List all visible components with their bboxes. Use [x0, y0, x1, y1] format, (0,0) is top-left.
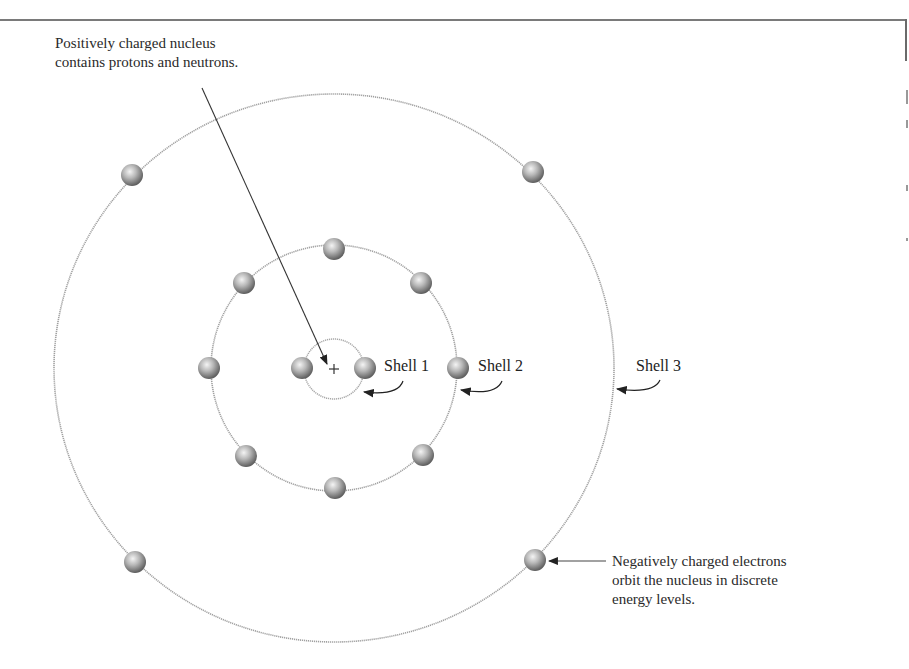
electron-icon: [291, 357, 313, 379]
electron-icon: [524, 549, 546, 571]
nucleus-annotation: Positively charged nucleus contains prot…: [55, 34, 238, 72]
shell-2-label: Shell 2: [478, 357, 523, 375]
electron-icon: [324, 477, 346, 499]
nucleus-pointer-arrow: [202, 88, 327, 364]
shell-2-curved-arrow: [461, 381, 502, 392]
shell-1-label: Shell 1: [384, 357, 429, 375]
electron-icon: [235, 445, 257, 467]
nucleus-plus-icon: [329, 364, 339, 374]
electron-annotation-line-3: energy levels.: [612, 590, 787, 609]
electron-icon: [323, 238, 345, 260]
electron-icon: [522, 161, 544, 183]
shell-1-curved-arrow: [364, 381, 403, 393]
electron-icon: [447, 357, 469, 379]
electron-icon: [121, 164, 143, 186]
electron-annotation: Negatively charged electrons orbit the n…: [612, 552, 787, 609]
electron-icon: [233, 272, 255, 294]
electron-icon: [198, 357, 220, 379]
nucleus-annotation-line-2: contains protons and neutrons.: [55, 53, 238, 72]
electron-icon: [412, 444, 434, 466]
shell-3-label: Shell 3: [636, 357, 681, 375]
electron-icon: [354, 357, 376, 379]
electron-annotation-line-2: orbit the nucleus in discrete: [612, 571, 787, 590]
shell-3-curved-arrow: [617, 380, 660, 390]
electron-icon: [124, 551, 146, 573]
nucleus-annotation-line-1: Positively charged nucleus: [55, 34, 238, 53]
electron-icon: [410, 272, 432, 294]
electron-annotation-line-1: Negatively charged electrons: [612, 552, 787, 571]
